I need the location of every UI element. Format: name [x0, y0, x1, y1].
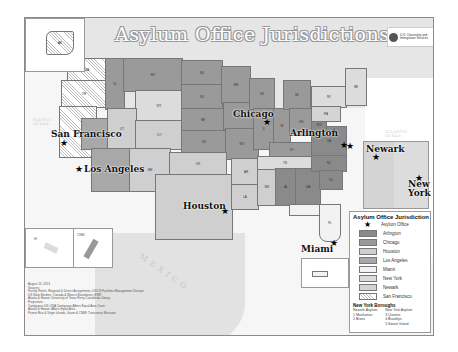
state-ga[interactable]: GA [295, 168, 321, 206]
credit-line: Puerto Rico & Virgin Islands, Guam & CNM… [28, 312, 158, 316]
state-pa[interactable]: PA [311, 106, 341, 122]
city-san-francisco[interactable]: San Francisco [51, 129, 122, 139]
dhs-seal-icon [389, 33, 398, 42]
legend-item-san-francisco: San Francisco [353, 292, 427, 301]
ny-boroughs: New York Asylum 3 Queens 4 Brooklyn 5 St… [385, 308, 412, 326]
legend-swatch [359, 257, 377, 264]
agency-name: U.S. Citizenship and Immigration Service… [400, 34, 433, 41]
nyc-inset: Newark ★ ★ New York [363, 141, 429, 209]
legend-label: New York [383, 276, 402, 281]
guam-island[interactable] [83, 239, 98, 259]
borough-item: 5 Staten Island [385, 322, 412, 327]
ny-boroughs-header: New York Asylum [385, 308, 412, 313]
newark-boroughs-header: Newark Asylum [353, 308, 377, 313]
state-la[interactable]: LA [231, 184, 259, 210]
agency-logo-block: U.S. Citizenship and Immigration Service… [387, 27, 434, 47]
legend-swatch [359, 239, 377, 246]
state-ok[interactable]: OK [169, 152, 227, 176]
state-ny[interactable]: NY [311, 86, 347, 108]
legend-item-newark: Newark [353, 283, 427, 292]
asylum-office-star-la[interactable]: ★ [75, 165, 83, 174]
legend-swatch [359, 293, 377, 300]
state-ks[interactable]: KS [181, 130, 227, 154]
city-miami[interactable]: Miami [301, 244, 333, 254]
legend-item-new-york: New York [353, 274, 427, 283]
puerto-rico-inset [301, 258, 349, 288]
state-new-england[interactable]: NE [345, 68, 367, 106]
legend-label: Chicago [383, 240, 400, 245]
legend-label: Los Angeles [383, 258, 408, 263]
asylum-office-star-newark[interactable]: ★ [372, 153, 380, 162]
guam-inset: CNMI [73, 228, 113, 268]
hawaii-islands[interactable] [43, 242, 58, 253]
atlantic-label: ATLANTIC OCEAN [385, 130, 413, 138]
state-fl[interactable]: FL [319, 204, 341, 242]
state-mn[interactable]: MN [221, 66, 251, 104]
pacific-label: PACIFIC OCEAN [33, 118, 61, 126]
state-wi[interactable]: WI [249, 78, 275, 110]
state-wy[interactable]: WY [135, 90, 183, 122]
state-mt[interactable]: MT [123, 58, 183, 92]
state-or[interactable]: OR [61, 80, 107, 108]
state-ms[interactable]: MS [257, 168, 277, 206]
state-ne[interactable]: NE [181, 108, 225, 132]
legend-item-asylum-office: ★ Asylum Office [353, 220, 427, 229]
state-mi[interactable]: MI [283, 80, 311, 110]
state-sd[interactable]: SD [181, 84, 223, 110]
legend-item-miami: Miami [353, 265, 427, 274]
map-title: Asylum Office Jurisdictions [115, 23, 390, 45]
city-houston[interactable]: Houston [183, 201, 226, 211]
asylum-office-star-ny-main[interactable]: ★ [346, 142, 354, 151]
legend-label: Newark [383, 285, 398, 290]
state-nd[interactable]: ND [181, 60, 223, 86]
city-arlington[interactable]: Arlington [290, 128, 338, 138]
legend-label: San Francisco [383, 294, 412, 299]
asylum-office-star-sf[interactable]: ★ [60, 139, 68, 148]
legend-item-houston: Houston [353, 247, 427, 256]
state-id[interactable]: ID [105, 58, 125, 110]
legend-label: Asylum Office [381, 222, 409, 227]
map-frame: CANADA MEXICO PACIFIC OCEAN ATLANTIC OCE… [24, 17, 434, 336]
state-co[interactable]: CO [135, 120, 183, 150]
legend-swatch [359, 275, 377, 282]
newark-boroughs: Newark Asylum 1 Manhattan 2 Bronx [353, 308, 377, 326]
legend-label: Houston [383, 249, 400, 254]
legend-item-chicago: Chicago [353, 238, 427, 247]
legend-swatch [359, 284, 377, 291]
puerto-rico-island[interactable] [312, 271, 328, 277]
hawaii-label: HI [34, 237, 37, 241]
legend-label: Arlington [383, 231, 401, 236]
guam-label: CNMI [77, 233, 85, 237]
city-los-angeles[interactable]: Los Angeles [84, 164, 144, 174]
map-credits: August 13, 2013 Sources: Facility Points… [28, 283, 158, 315]
state-al[interactable]: AL [275, 168, 297, 206]
borough-item: 2 Bronx [353, 317, 377, 322]
legend-item-arlington: Arlington [353, 229, 427, 238]
hawaii-inset: HI [25, 228, 75, 268]
city-chicago[interactable]: Chicago [233, 109, 274, 119]
legend-swatch [359, 230, 377, 237]
legend-swatch [359, 248, 377, 255]
legend-item-los-angeles: Los Angeles [353, 256, 427, 265]
alaska-inset: AK [25, 18, 85, 72]
boroughs-columns: Newark Asylum 1 Manhattan 2 Bronx New Yo… [353, 308, 427, 326]
state-ak[interactable]: AK [46, 31, 74, 55]
legend-swatch [359, 266, 377, 273]
star-icon: ★ [359, 222, 375, 227]
city-new-york[interactable]: New York [408, 180, 428, 198]
asylum-office-star-chicago[interactable]: ★ [263, 118, 271, 127]
state-sc[interactable]: SC [319, 170, 343, 190]
legend: Asylum Office Jurisdiction ★ Asylum Offi… [349, 211, 431, 333]
legend-label: Miami [383, 267, 395, 272]
